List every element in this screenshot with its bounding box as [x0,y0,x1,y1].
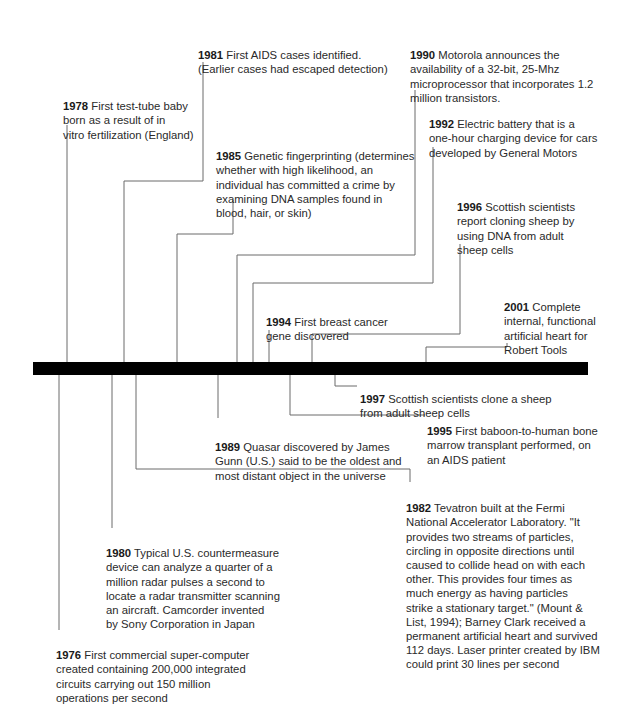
event-1990: 1990 Motorola announces the availability… [410,34,593,105]
event-2001: 2001 Complete internal, functional artif… [504,286,596,357]
event-1978: 1978 First test-tube baby born as a resu… [63,85,194,142]
event-year: 1981 [198,49,223,61]
event-1980: 1980 Typical U.S. countermeasure device … [106,532,280,631]
event-year: 1997 [360,393,385,405]
event-description: Tevatron built at the Fermi National Acc… [406,502,600,670]
event-description: Motorola announces the availability of a… [410,49,593,104]
event-year: 1994 [266,316,291,328]
event-year: 2001 [504,301,529,313]
event-year: 1990 [410,49,435,61]
event-description: First commercial super-computer created … [56,649,249,704]
event-year: 1978 [63,100,88,112]
event-year: 1976 [56,649,81,661]
event-description: Scottish scientists clone a sheep from a… [360,393,552,419]
event-1982: 1982 Tevatron built at the Fermi Nationa… [406,487,600,672]
event-1997: 1997 Scottish scientists clone a sheep f… [360,378,552,421]
event-year: 1980 [106,547,131,559]
event-1994: 1994 First breast cancer gene discovered [266,301,388,344]
event-year: 1985 [216,150,241,162]
event-description: First baboon-to-human bone marrow transp… [427,425,598,465]
event-description: Genetic fingerprinting (determines wheth… [216,150,414,219]
event-1996: 1996 Scottish scientists report cloning … [457,186,575,257]
event-year: 1982 [406,502,431,514]
event-1976: 1976 First commercial super-computer cre… [56,634,249,705]
event-1989: 1989 Quasar discovered by James Gunn (U.… [215,426,402,483]
event-year: 1995 [427,425,452,437]
event-1992: 1992 Electric battery that is a one-hour… [429,103,597,160]
event-year: 1996 [457,201,482,213]
connector-2001 [426,343,507,362]
timeline-bar [33,362,588,375]
event-description: Typical U.S. countermeasure device can a… [106,547,280,630]
connector-1985 [177,200,233,362]
event-year: 1992 [429,118,454,130]
event-description: Electric battery that is a one-hour char… [429,118,597,158]
connector-1997 [335,375,357,386]
event-1985: 1985 Genetic fingerprinting (determines … [216,135,414,220]
event-description: First AIDS cases identified. (Earlier ca… [198,49,388,75]
event-1981: 1981 First AIDS cases identified. (Earli… [198,34,388,77]
event-description: Quasar discovered by James Gunn (U.S.) s… [215,441,402,481]
event-year: 1989 [215,441,240,453]
